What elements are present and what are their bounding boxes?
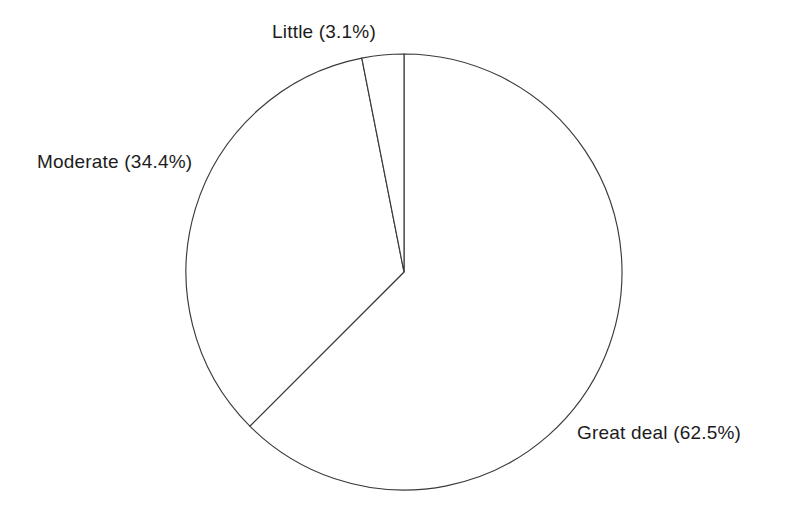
pie-slice-label-great-deal: Great deal (62.5%) bbox=[577, 423, 741, 442]
pie-slices-group bbox=[186, 54, 622, 490]
pie-chart bbox=[0, 0, 792, 522]
pie-slice-label-little: Little (3.1%) bbox=[272, 22, 376, 41]
chart-canvas: Little (3.1%) Moderate (34.4%) Great dea… bbox=[0, 0, 792, 522]
pie-slice-label-moderate: Moderate (34.4%) bbox=[37, 152, 192, 171]
